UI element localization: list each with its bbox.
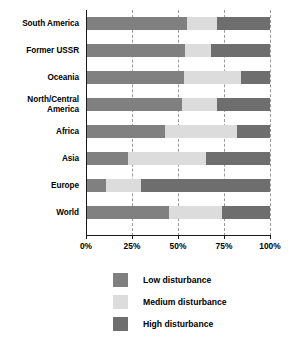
x-axis-tick xyxy=(132,235,133,239)
x-axis-tick-label: 100% xyxy=(259,241,280,251)
table-row: South America xyxy=(0,10,298,37)
bar-segment-high xyxy=(206,152,270,165)
bar-category-label: South America xyxy=(0,19,86,28)
bar-segment-low xyxy=(86,179,106,192)
legend-swatch-icon xyxy=(113,317,128,331)
bar-segment-high xyxy=(222,206,270,219)
bar-segment-low xyxy=(86,17,187,30)
bar-category-label: Europe xyxy=(0,181,86,190)
bar-segment-medium xyxy=(128,152,205,165)
legend-swatch-icon xyxy=(113,273,128,287)
legend-item: Low disturbance xyxy=(113,273,227,287)
bar-segment-medium xyxy=(106,179,141,192)
x-axis-tick xyxy=(86,235,87,239)
bar-segment-high xyxy=(241,71,270,84)
stacked-bar xyxy=(86,71,270,84)
bar-segment-high xyxy=(141,179,270,192)
x-axis-tick xyxy=(178,235,179,239)
table-row: Africa xyxy=(0,118,298,145)
bar-segment-medium xyxy=(169,206,222,219)
y-axis-line xyxy=(86,10,87,236)
stacked-bar-chart: South AmericaFormer USSROceaniaNorth/Cen… xyxy=(0,0,298,351)
bar-segment-low xyxy=(86,152,128,165)
legend-label: High disturbance xyxy=(143,319,213,329)
bar-segment-medium xyxy=(185,44,211,57)
table-row: Asia xyxy=(0,145,298,172)
x-axis-tick-label: 75% xyxy=(216,241,233,251)
bar-segment-low xyxy=(86,44,185,57)
legend-item: High disturbance xyxy=(113,317,227,331)
bar-segment-high xyxy=(217,98,270,111)
bar-segment-low xyxy=(86,125,165,138)
stacked-bar xyxy=(86,152,270,165)
bar-segment-low xyxy=(86,98,182,111)
stacked-bar xyxy=(86,179,270,192)
table-row: World xyxy=(0,199,298,226)
bar-segment-low xyxy=(86,71,184,84)
legend-label: Medium disturbance xyxy=(143,297,227,307)
x-axis-tick-label: 50% xyxy=(170,241,187,251)
stacked-bar xyxy=(86,98,270,111)
bar-category-label: World xyxy=(0,208,86,217)
bar-segment-low xyxy=(86,206,169,219)
bar-category-label: Asia xyxy=(0,154,86,163)
table-row: Oceania xyxy=(0,64,298,91)
x-axis-tick xyxy=(270,235,271,239)
bar-rows: South AmericaFormer USSROceaniaNorth/Cen… xyxy=(0,10,298,226)
bar-segment-medium xyxy=(187,17,216,30)
x-axis-tick xyxy=(224,235,225,239)
bar-segment-high xyxy=(217,17,270,30)
stacked-bar xyxy=(86,44,270,57)
table-row: Europe xyxy=(0,172,298,199)
table-row: Former USSR xyxy=(0,37,298,64)
bar-segment-medium xyxy=(165,125,237,138)
bar-segment-high xyxy=(211,44,270,57)
bar-category-label: North/Central America xyxy=(0,95,86,114)
bar-segment-high xyxy=(237,125,270,138)
bar-segment-medium xyxy=(182,98,217,111)
x-axis-tick-label: 25% xyxy=(124,241,141,251)
bar-category-label: Africa xyxy=(0,127,86,136)
plot-area: South AmericaFormer USSROceaniaNorth/Cen… xyxy=(0,0,298,248)
bar-category-label: Oceania xyxy=(0,73,86,82)
stacked-bar xyxy=(86,206,270,219)
stacked-bar xyxy=(86,17,270,30)
chart-legend: Low disturbanceMedium disturbanceHigh di… xyxy=(113,273,227,331)
x-axis-tick-label: 0% xyxy=(80,241,92,251)
bar-category-label: Former USSR xyxy=(0,46,86,55)
legend-swatch-icon xyxy=(113,295,128,309)
stacked-bar xyxy=(86,125,270,138)
legend-item: Medium disturbance xyxy=(113,295,227,309)
table-row: North/Central America xyxy=(0,91,298,118)
legend-label: Low disturbance xyxy=(143,275,211,285)
bar-segment-medium xyxy=(184,71,241,84)
x-axis-tick-labels: 0%25%50%75%100% xyxy=(0,241,298,255)
